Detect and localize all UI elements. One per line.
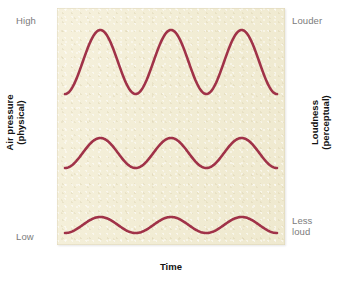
y-axis-title-loudness: Loudness (perceptual)	[310, 68, 331, 178]
sound-wave-amplitude-figure: High Low Louder Less loud Air pressure (…	[0, 0, 341, 281]
waveform-line	[65, 30, 277, 94]
waveform-line	[65, 138, 277, 168]
y-axis-top-label-high: High	[16, 15, 54, 26]
waveform-plot-area	[57, 8, 285, 245]
x-axis-title-time: Time	[57, 262, 285, 273]
y-axis-right-bottom-label-less-loud: Less loud	[292, 215, 340, 237]
y-axis-right-top-label-louder: Louder	[292, 15, 340, 26]
waveform-line	[65, 217, 277, 233]
y-axis-bottom-label-low: Low	[16, 231, 54, 242]
plot-panel	[57, 8, 285, 245]
y-axis-title-air-pressure: Air pressure (physical)	[5, 68, 26, 178]
wave-series-group	[65, 30, 277, 233]
